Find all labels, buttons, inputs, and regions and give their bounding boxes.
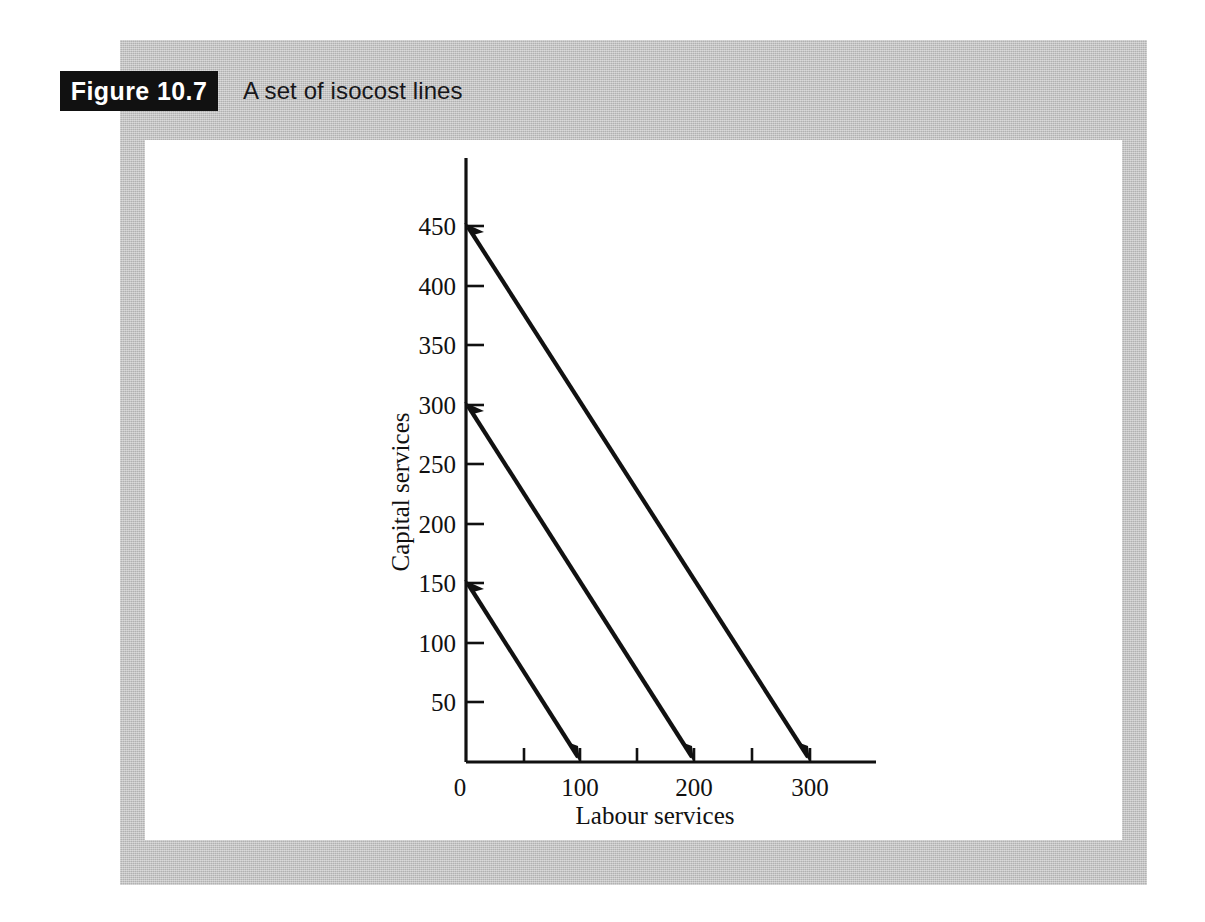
- figure-page: Figure 10.7 A set of isocost lines: [0, 0, 1205, 922]
- figure-number-badge: Figure 10.7: [60, 71, 218, 111]
- figure-caption: A set of isocost lines: [243, 73, 463, 109]
- figure-white-card: [145, 140, 1122, 840]
- figure-number-label: Figure 10.7: [71, 77, 207, 106]
